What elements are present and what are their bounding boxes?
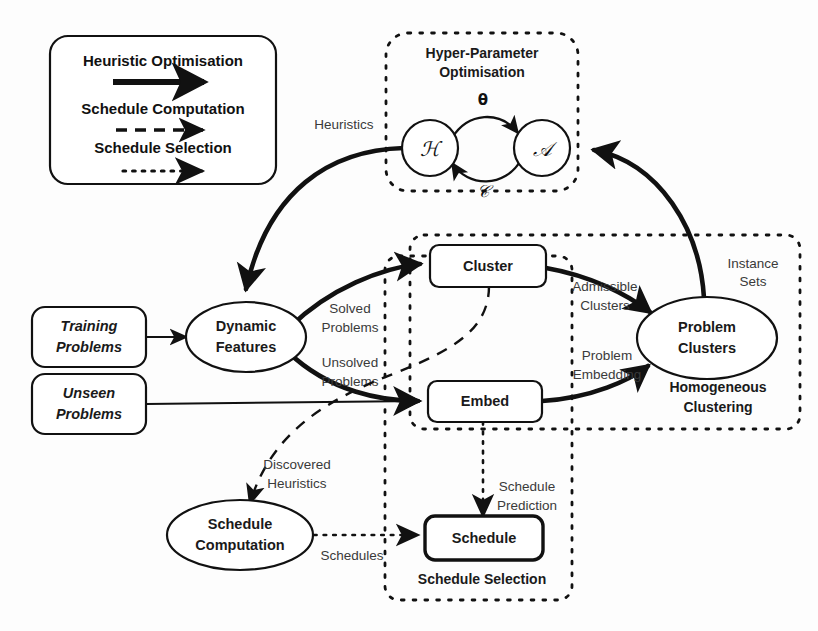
problem-clusters-label-line1: Problem [678, 319, 736, 335]
edge-theta [452, 117, 518, 138]
clustering-group-title-line2: Clustering [683, 399, 752, 415]
edge-label-solved-line2: Problems [321, 320, 378, 335]
edge-label-unsolved-line2: Problems [321, 374, 378, 389]
framework-diagram: Hyper-Parameter Optimisation Homogeneous… [0, 0, 818, 631]
edge-label-discovered-line1: Discovered [263, 457, 331, 472]
node-dynamic-features[interactable]: Dynamic Features [186, 302, 306, 372]
training-problems-box [32, 307, 146, 367]
schedule-computation-label-line1: Schedule [208, 516, 272, 532]
legend-entry-2-label: Schedule Selection [94, 139, 232, 156]
dynamic-features-ellipse [186, 302, 306, 372]
node-problem-clusters[interactable]: Problem Clusters [637, 297, 777, 379]
edge-label-unsolved-line1: Unsolved [322, 355, 378, 370]
legend-entry-0-label: Heuristic Optimisation [83, 52, 243, 69]
unseen-problems-box [32, 374, 146, 434]
node-cluster[interactable]: Cluster [430, 245, 546, 287]
edge-label-admissible-line1: Admissible [572, 279, 637, 294]
edge-unseen-to-embed [146, 401, 420, 404]
hpo-group-title-line1: Hyper-Parameter [426, 45, 539, 61]
dynamic-features-label-line2: Features [216, 339, 276, 355]
node-training-problems[interactable]: Training Problems [32, 307, 146, 367]
cluster-label: Cluster [463, 258, 513, 274]
selection-group-title: Schedule Selection [418, 571, 546, 587]
edge-label-schedules: Schedules [320, 548, 383, 563]
legend-entry-1-label: Schedule Computation [81, 100, 244, 117]
edge-label-embedding-line2: Embedding [573, 367, 641, 382]
edge-label-admissible-line2: Clusters [580, 298, 630, 313]
problem-clusters-ellipse [637, 297, 777, 379]
edge-instance-sets [594, 150, 704, 298]
edge-label-prediction-line1: Schedule [499, 479, 555, 494]
edge-label-instance-sets-line1: Instance [727, 256, 778, 271]
legend: Heuristic Optimisation Schedule Computat… [50, 36, 276, 184]
edge-label-heuristics: Heuristics [314, 117, 374, 132]
schedule-computation-ellipse [167, 500, 313, 570]
edge-solved-problems [290, 264, 420, 327]
schedule-label: Schedule [452, 530, 516, 546]
node-schedule[interactable]: Schedule [425, 516, 543, 560]
edge-label-prediction-line2: Prediction [497, 498, 557, 513]
heuristic-space-symbol: ℋ [420, 137, 443, 161]
edge-label-instance-sets-line2: Sets [739, 274, 766, 289]
node-heuristic-space[interactable]: ℋ [402, 120, 458, 176]
node-algorithm-space[interactable]: 𝒜 [514, 120, 570, 176]
unseen-problems-label-line1: Unseen [63, 385, 116, 401]
training-problems-label-line1: Training [61, 318, 118, 334]
edge-label-theta: θ [478, 91, 488, 109]
edge-label-solved-line1: Solved [329, 301, 370, 316]
edge-label-discovered-line2: Heuristics [267, 476, 327, 491]
unseen-problems-label-line2: Problems [56, 406, 122, 422]
schedule-computation-label-line2: Computation [195, 537, 284, 553]
problem-clusters-label-line2: Clusters [678, 340, 736, 356]
dynamic-features-label-line1: Dynamic [216, 318, 276, 334]
node-embed[interactable]: Embed [428, 381, 542, 422]
node-unseen-problems[interactable]: Unseen Problems [32, 374, 146, 434]
edge-label-calligraphic-c: 𝒞 [477, 181, 494, 201]
hpo-group-title-line2: Optimisation [439, 64, 525, 80]
node-schedule-computation[interactable]: Schedule Computation [167, 500, 313, 570]
edge-calligraphic-c [452, 160, 521, 181]
embed-label: Embed [461, 393, 509, 409]
training-problems-label-line2: Problems [56, 339, 122, 355]
edge-label-embedding-line1: Problem [582, 348, 632, 363]
clustering-group-title-line1: Homogeneous [669, 379, 766, 395]
